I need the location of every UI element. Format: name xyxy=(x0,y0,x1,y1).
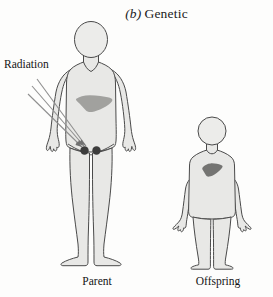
parent-figure xyxy=(46,22,135,266)
figure-caption: (b)Genetic xyxy=(0,6,273,22)
offspring-torso xyxy=(189,150,236,219)
parent-gonad-right xyxy=(92,146,100,154)
offspring-head xyxy=(198,117,226,145)
offspring-label: Offspring xyxy=(178,275,258,287)
offspring-figure xyxy=(173,117,251,269)
parent-head xyxy=(75,22,108,58)
parent-label: Parent xyxy=(62,275,132,287)
parent-left-leg xyxy=(61,148,90,266)
figure-title-text: Genetic xyxy=(144,6,187,21)
illustration-canvas xyxy=(0,0,273,297)
offspring-left-leg xyxy=(191,217,211,269)
radiation-label: Radiation xyxy=(4,58,49,70)
figure-root: (b)Genetic Radiation Parent Offspring xyxy=(0,0,273,297)
figure-part-letter: (b) xyxy=(125,6,141,21)
offspring-right-leg xyxy=(213,217,233,269)
parent-right-leg xyxy=(93,148,122,266)
parent-gonad-left xyxy=(80,146,88,154)
